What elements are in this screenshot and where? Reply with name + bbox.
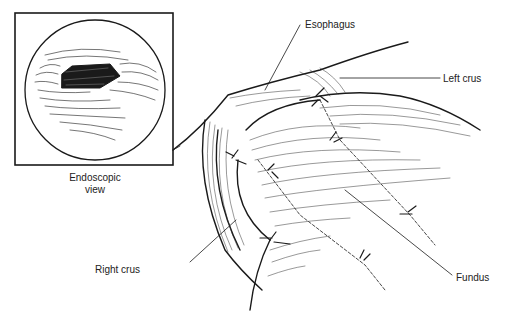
label-esophagus: Esophagus (305, 19, 355, 31)
label-left-crus: Left crus (443, 73, 481, 85)
inset-caption-line2: view (50, 184, 140, 196)
inset-caption-line1: Endoscopic (50, 172, 140, 184)
label-fundus: Fundus (456, 272, 489, 284)
suture-knots (226, 88, 416, 260)
stomach-drawing (173, 42, 480, 310)
inset-caption: Endoscopic view (50, 172, 140, 196)
fundoplication-illustration (0, 0, 509, 336)
endoscopic-inset (15, 13, 180, 165)
label-right-crus: Right crus (95, 264, 140, 276)
